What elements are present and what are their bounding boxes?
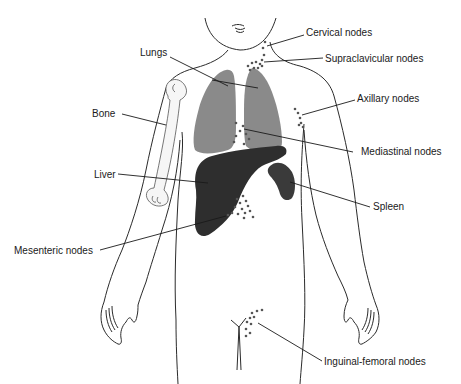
label-mesenteric-nodes: Mesenteric nodes xyxy=(14,245,93,257)
label-supraclavicular-nodes: Supraclavicular nodes xyxy=(325,53,423,65)
anatomy-diagram: Cervical nodes Supraclavicular nodes Lun… xyxy=(0,0,461,384)
label-bone: Bone xyxy=(92,108,115,120)
label-mediastinal-nodes: Mediastinal nodes xyxy=(361,146,442,158)
head-outline xyxy=(205,18,276,50)
liver xyxy=(195,146,287,236)
label-cervical-nodes: Cervical nodes xyxy=(306,27,372,39)
lungs xyxy=(194,68,282,154)
label-lungs: Lungs xyxy=(140,47,167,59)
label-liver: Liver xyxy=(94,169,116,181)
torso-outline xyxy=(101,42,379,384)
label-spleen: Spleen xyxy=(373,201,404,213)
spleen xyxy=(268,163,295,200)
label-inguinal-femoral-nodes: Inguinal-femoral nodes xyxy=(324,356,426,368)
label-axillary-nodes: Axillary nodes xyxy=(357,93,419,105)
